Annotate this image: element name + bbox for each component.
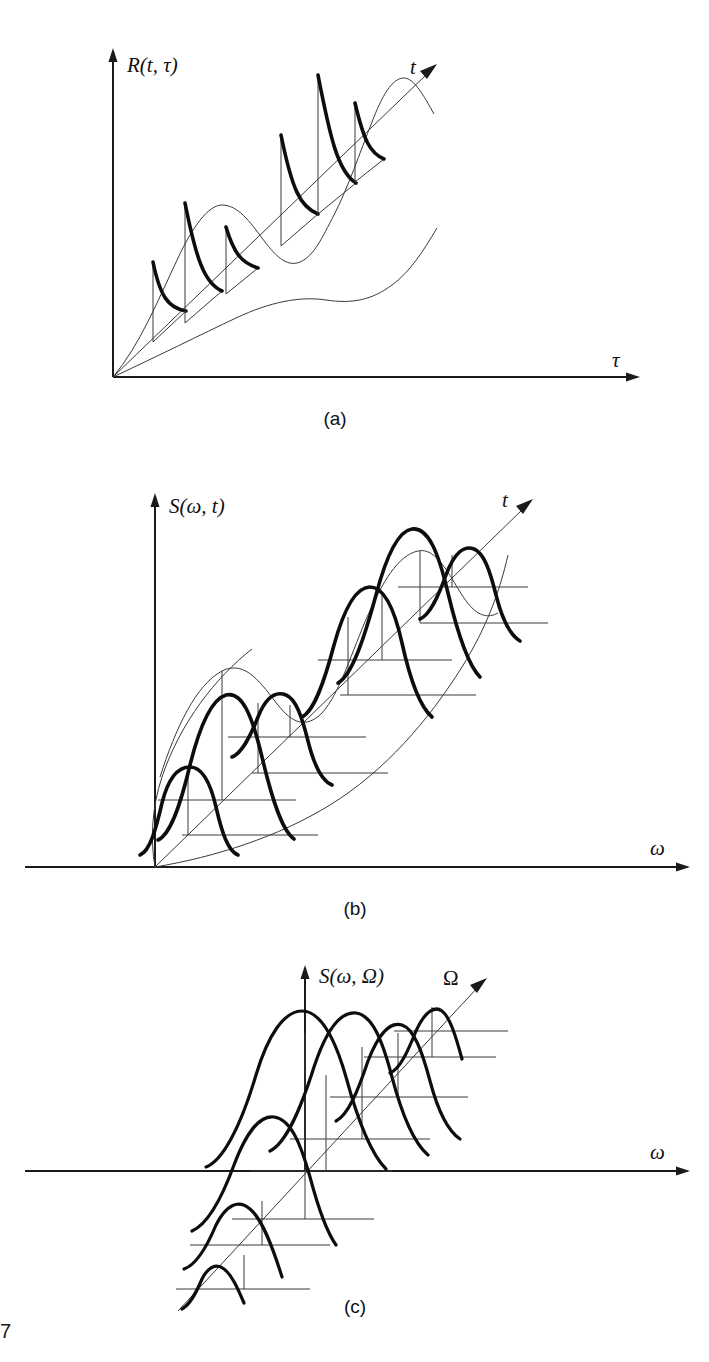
panel-c-caption: (c) (344, 1296, 366, 1317)
page-number: 7 (0, 1320, 40, 1346)
panel-c: S(ω, Ω) Ω ω (c) (0, 925, 709, 1325)
panel-c-graphic: S(ω, Ω) Ω ω (c) (0, 925, 709, 1325)
panel-a-graphic: R(t, τ) t τ (a) (0, 0, 709, 455)
panel-a-lower-envelope (113, 228, 437, 377)
panel-a-upper-envelope (113, 78, 434, 377)
panel-b-y-axis (151, 493, 160, 867)
panel-b-y-axis-label: S(ω, t) (169, 494, 225, 518)
curve-5 (318, 75, 356, 214)
panel-a-y-axis (109, 48, 118, 377)
panel-b-left-envelope (152, 649, 252, 867)
panel-c-x-axis-label: ω (650, 1140, 665, 1164)
panel-b-base-grid (158, 587, 548, 835)
panel-a-x-axis (113, 373, 640, 382)
panel-a: R(t, τ) t τ (a) (0, 0, 709, 455)
panel-b: S(ω, t) t ω (b) (0, 455, 709, 925)
figure-sheet: R(t, τ) t τ (a) (0, 0, 709, 1362)
curve-6 (355, 103, 384, 182)
panel-c-depth-axis-label: Ω (443, 966, 459, 990)
panel-c-y-axis-label: S(ω, Ω) (319, 964, 384, 988)
curve-2 (158, 695, 294, 840)
panel-b-depth-axis (155, 499, 533, 867)
panel-b-caption: (b) (343, 898, 366, 919)
panel-a-caption: (a) (323, 408, 346, 429)
panel-b-x-axis-label: ω (650, 836, 665, 860)
panel-a-depth-axis (113, 64, 437, 377)
curve-4 (281, 135, 318, 246)
panel-b-graphic: S(ω, t) t ω (b) (0, 455, 709, 925)
curve-2 (185, 203, 222, 323)
curve-4 (302, 587, 432, 717)
panel-a-x-axis-label: τ (612, 348, 621, 372)
panel-a-y-axis-label: R(t, τ) (126, 53, 178, 77)
panel-b-depth-axis-label: t (502, 488, 509, 512)
curve-3 (226, 227, 258, 294)
panel-b-x-axis (25, 863, 690, 872)
panel-a-depth-axis-label: t (410, 55, 417, 79)
panel-c-base-grid (176, 1031, 508, 1289)
